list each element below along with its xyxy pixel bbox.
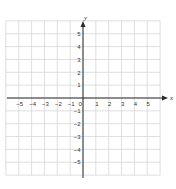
coordinate-plane: x y 0 −5−4−3−2−112345 54321−1−2−3−4−5 bbox=[0, 0, 176, 189]
x-tick-label: 2 bbox=[108, 101, 112, 107]
x-tick-label: 3 bbox=[121, 101, 125, 107]
x-tick-label: −2 bbox=[55, 101, 63, 107]
y-tick-label: −2 bbox=[74, 121, 82, 127]
x-tick-label: 4 bbox=[134, 101, 138, 107]
y-tick-label: −5 bbox=[74, 159, 82, 165]
x-axis-arrow-icon bbox=[162, 96, 168, 101]
x-tick-label: 5 bbox=[147, 101, 151, 107]
x-axis-label: x bbox=[169, 94, 174, 102]
x-tick-label: −4 bbox=[29, 101, 37, 107]
x-tick-label: −1 bbox=[68, 101, 76, 107]
y-tick-label: −3 bbox=[74, 134, 82, 140]
x-tick-label: 1 bbox=[95, 101, 99, 107]
y-tick-label: −4 bbox=[74, 147, 82, 153]
origin-label: 0 bbox=[79, 101, 83, 107]
x-tick-label: −5 bbox=[16, 101, 24, 107]
x-tick-label: −3 bbox=[42, 101, 50, 107]
axes: x y 0 bbox=[7, 14, 174, 178]
y-tick-label: −1 bbox=[74, 108, 82, 114]
